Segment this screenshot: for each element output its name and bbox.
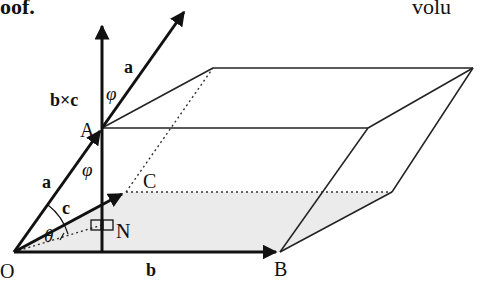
label-vector-a-upper: a	[124, 57, 133, 77]
label-C: C	[143, 170, 156, 192]
label-theta: θ	[44, 225, 53, 246]
label-vector-a-lower: a	[42, 172, 51, 192]
label-A: A	[80, 119, 95, 141]
vector-a-upper	[102, 12, 184, 128]
label-phi-lower: φ	[82, 159, 93, 180]
label-vector-b: b	[146, 260, 156, 280]
label-vector-bxc: b×c	[50, 90, 78, 110]
label-vector-c: c	[62, 198, 70, 218]
label-B: B	[274, 258, 287, 280]
parallelepiped-diagram: O A B C N a b×c a c b φ φ θ	[0, 0, 482, 284]
label-phi-upper: φ	[106, 83, 117, 104]
label-O: O	[0, 260, 14, 282]
label-N: N	[116, 220, 130, 242]
